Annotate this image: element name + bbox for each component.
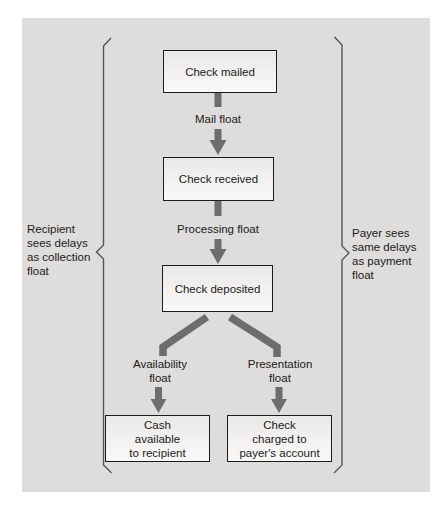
availability-float-label: Availability float [133, 357, 187, 385]
node-check-charged: Check charged to payer's account [227, 415, 332, 462]
node-cash-available: Cash available to recipient [105, 415, 210, 462]
node-check-received: Check received [163, 157, 274, 201]
node-check-deposited: Check deposited [162, 265, 273, 312]
left-side-annotation: Recipient sees delays as collection floa… [27, 222, 90, 278]
processing-float-label: Processing float [177, 222, 259, 236]
right-side-annotation: Payer sees same delays as payment float [352, 226, 417, 282]
node-check-mailed: Check mailed [163, 50, 277, 93]
presentation-float-label: Presentation float [248, 357, 313, 385]
mail-float-label: Mail float [195, 112, 241, 126]
